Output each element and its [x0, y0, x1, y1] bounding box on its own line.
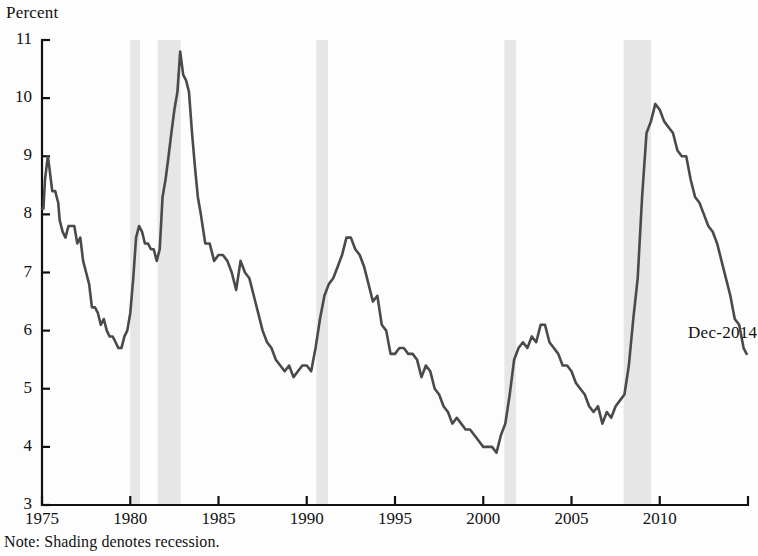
- x-tick-label: 1980: [95, 509, 165, 529]
- y-tick-label: 7: [4, 262, 32, 282]
- x-tick-label: 1990: [272, 509, 342, 529]
- recession-shading: [130, 40, 140, 505]
- chart-note: Note: Shading denotes recession.: [4, 533, 220, 551]
- y-tick-label: 10: [4, 87, 32, 107]
- y-tick-label: 6: [4, 320, 32, 340]
- y-tick-label: 4: [4, 436, 32, 456]
- x-tick-label: 1995: [360, 509, 430, 529]
- y-tick-label: 9: [4, 145, 32, 165]
- y-tick-label: 5: [4, 378, 32, 398]
- series-end-annotation: Dec-2014: [688, 323, 757, 343]
- chart-root: Percent Dec-2014 Note: Shading denotes r…: [0, 0, 758, 556]
- y-tick-label: 11: [4, 29, 32, 49]
- x-tick-label: 1975: [7, 509, 77, 529]
- y-tick-label: 8: [4, 203, 32, 223]
- x-tick-label: 2000: [448, 509, 518, 529]
- recession-shading: [158, 40, 181, 505]
- x-tick-label: 1985: [184, 509, 254, 529]
- x-tick-label: 2005: [537, 509, 607, 529]
- chart-svg: [0, 0, 758, 556]
- recession-shading: [316, 40, 327, 505]
- x-tick-label: 2010: [625, 509, 695, 529]
- recession-shading: [504, 40, 515, 505]
